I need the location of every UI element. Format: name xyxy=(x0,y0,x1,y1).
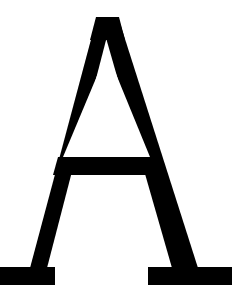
glyph-canvas: Capital letter A xyxy=(0,0,244,305)
right-serif-foot xyxy=(148,267,232,285)
crossbar xyxy=(53,157,162,175)
apex-cap xyxy=(90,17,125,40)
letter-a-glyph: Capital letter A xyxy=(0,0,244,305)
left-serif-foot xyxy=(0,267,55,285)
